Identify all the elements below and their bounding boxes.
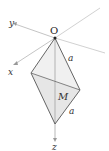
- y-axis-label: y: [8, 18, 15, 28]
- geometry-diagram: O y x z a M a: [0, 0, 109, 151]
- x-axis-label: x: [8, 67, 13, 77]
- y-axis-extension: [55, 38, 105, 53]
- origin-label: O: [50, 25, 58, 36]
- edge-bottom-label: a: [69, 106, 74, 116]
- edge-top-label: a: [68, 53, 73, 63]
- origin-point: [54, 37, 57, 40]
- y-axis-line: [15, 24, 55, 38]
- z-axis-label: z: [51, 142, 57, 151]
- x-axis-extension: [55, 8, 100, 38]
- x-arrow-icon: [13, 61, 18, 65]
- midpoint-label: M: [57, 91, 69, 102]
